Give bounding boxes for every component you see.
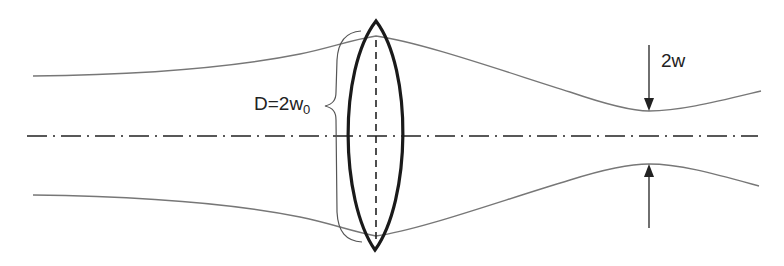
aperture-label-subscript: 0: [303, 102, 310, 117]
aperture-label: D=2w0: [254, 93, 310, 117]
waist-label: 2w: [661, 50, 686, 71]
arrow-up-icon: [644, 164, 654, 177]
gaussian-beam-lens-diagram: D=2w0 2w: [0, 0, 784, 266]
arrow-down-icon: [644, 98, 654, 111]
aperture-label-main: D=2w: [254, 93, 303, 114]
waist-arrow-top: [644, 45, 654, 111]
waist-arrow-bottom: [644, 164, 654, 228]
